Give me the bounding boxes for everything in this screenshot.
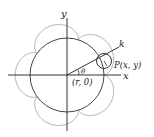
point-label: P(x, y) — [113, 60, 141, 70]
theta-arc — [78, 70, 79, 75]
x-axis-label: x — [123, 70, 129, 81]
start-point-label: (r, 0) — [72, 77, 93, 87]
k-label: k — [119, 39, 124, 49]
y-axis-label: y — [60, 8, 67, 19]
p-segment — [104, 61, 107, 66]
epicycloid-diagram: y x k P(x, y) θ (r, 0) — [0, 0, 154, 137]
